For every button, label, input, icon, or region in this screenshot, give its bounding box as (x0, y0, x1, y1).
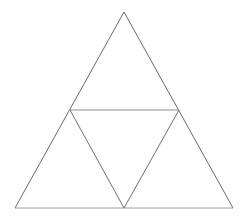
diagram-canvas (0, 0, 247, 220)
midsegment-right (124, 110, 179, 208)
midsegment-left (70, 110, 124, 208)
triangle-subdivision-figure (0, 0, 247, 220)
